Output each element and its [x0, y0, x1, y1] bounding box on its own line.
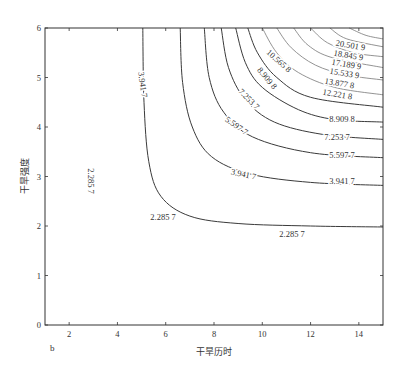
contour-labels: 2.285 72.285 72.285 72.285 72.285 72.285…: [86, 38, 366, 239]
y-tick-label: 4: [37, 122, 42, 132]
x-axis-title: 干旱历时: [196, 346, 232, 357]
panel-label: b: [50, 343, 55, 353]
x-tick-label: 14: [355, 329, 364, 339]
contour-label: 3.941 7: [136, 71, 149, 98]
contour-label: 5.597 7: [329, 150, 355, 160]
contour-label: 7.253 7: [237, 86, 262, 111]
y-axis-title: 干旱强度: [19, 158, 30, 194]
x-tick-label: 10: [258, 329, 267, 339]
contour-line: [349, 28, 383, 39]
contour-line: [248, 28, 383, 107]
contour-label: 2.285 7: [279, 229, 305, 239]
x-tick-label: 8: [212, 329, 216, 339]
contour-label: 7.253 7: [324, 132, 350, 142]
contour-label: 8.909 8: [329, 114, 355, 124]
contour-label: 10.565 8: [265, 47, 294, 74]
x-tick-label: 2: [67, 329, 71, 339]
x-tick-label: 4: [115, 329, 120, 339]
contour-label: 5.597 7: [223, 114, 250, 137]
contour-label: 3.941 7: [230, 167, 257, 182]
y-tick-label: 6: [37, 23, 41, 33]
contour-label: 8.909 8: [255, 65, 279, 91]
y-tick-label: 3: [37, 172, 41, 182]
contour-label: 3.941 7: [329, 176, 355, 186]
y-tick-label: 0: [37, 320, 41, 330]
contour-label: 2.285 7: [86, 168, 96, 194]
x-tick-label: 6: [164, 329, 168, 339]
x-tick-label: 12: [306, 329, 315, 339]
y-tick-label: 2: [37, 221, 41, 231]
contour-label: 2.285 7: [150, 212, 176, 222]
contour-chart: 2.285 72.285 72.285 72.285 72.285 72.285…: [0, 0, 405, 373]
y-tick-label: 5: [37, 73, 41, 83]
y-tick-label: 1: [37, 271, 41, 281]
